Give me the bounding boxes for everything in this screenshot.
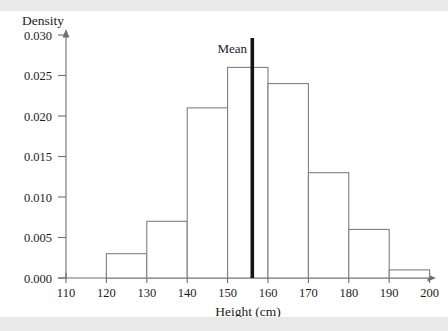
x-axis-title: Height (cm) bbox=[215, 304, 281, 317]
x-tick-label-3: 140 bbox=[178, 286, 197, 300]
bar-130-140 bbox=[147, 221, 187, 278]
y-tick-label-5: 0.025 bbox=[24, 69, 52, 83]
y-tick-marks bbox=[58, 35, 66, 278]
mean-annotation-label: Mean bbox=[217, 41, 247, 56]
y-tick-label-0: 0.000 bbox=[24, 272, 52, 286]
bar-150-160 bbox=[228, 67, 268, 278]
bar-120-130 bbox=[106, 254, 146, 278]
bar-190-200 bbox=[389, 270, 429, 278]
page-bottom-band bbox=[0, 317, 448, 331]
x-tick-label-4: 150 bbox=[218, 286, 237, 300]
y-tick-label-2: 0.010 bbox=[24, 191, 52, 205]
bar-180-190 bbox=[349, 229, 389, 278]
y-axis-arrowhead bbox=[63, 29, 70, 38]
histogram-svg: Mean Density 0.000 0.005 0.010 0.015 0.0… bbox=[0, 11, 448, 317]
x-tick-label-7: 180 bbox=[339, 286, 358, 300]
y-tick-label-3: 0.015 bbox=[24, 150, 52, 164]
y-tick-label-1: 0.005 bbox=[24, 231, 52, 245]
x-tick-label-0: 110 bbox=[57, 286, 75, 300]
y-tick-labels: 0.000 0.005 0.010 0.015 0.020 0.025 0.03… bbox=[24, 29, 52, 286]
y-axis-title: Density bbox=[22, 13, 64, 28]
y-tick-label-4: 0.020 bbox=[24, 110, 52, 124]
y-axis-group bbox=[63, 29, 70, 278]
x-tick-label-5: 160 bbox=[259, 286, 278, 300]
histogram-bars bbox=[106, 67, 429, 278]
x-tick-label-8: 190 bbox=[380, 286, 399, 300]
x-tick-label-6: 170 bbox=[299, 286, 318, 300]
page-top-band bbox=[0, 0, 448, 11]
x-tick-label-1: 120 bbox=[97, 286, 116, 300]
x-tick-label-2: 130 bbox=[137, 286, 156, 300]
x-tick-labels: 110 120 130 140 150 160 170 180 190 200 bbox=[57, 286, 439, 300]
bar-160-170 bbox=[268, 84, 308, 278]
bar-170-180 bbox=[308, 173, 348, 278]
y-tick-label-6: 0.030 bbox=[24, 29, 52, 43]
chart-canvas: Mean Density 0.000 0.005 0.010 0.015 0.0… bbox=[0, 11, 448, 317]
bar-140-150 bbox=[187, 108, 227, 278]
histogram-figure-page: Mean Density 0.000 0.005 0.010 0.015 0.0… bbox=[0, 0, 448, 331]
x-tick-label-9: 200 bbox=[420, 286, 439, 300]
